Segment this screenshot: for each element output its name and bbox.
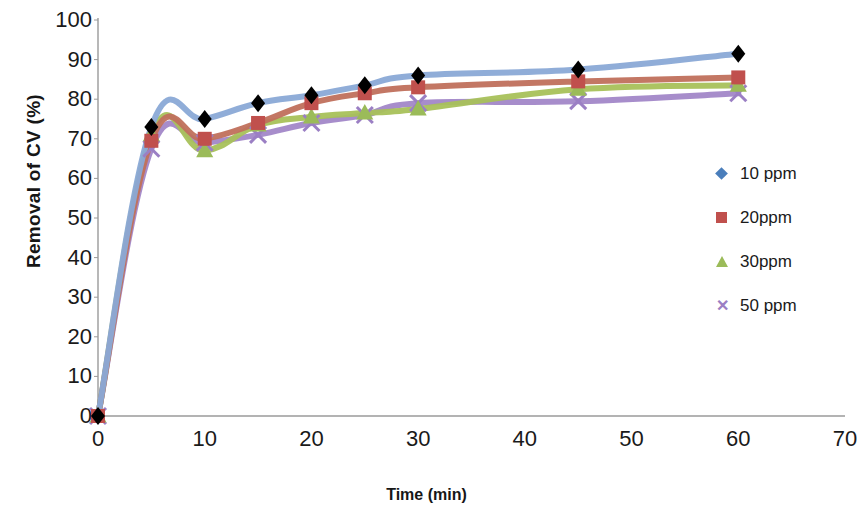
- data-point-marker: [251, 116, 265, 130]
- data-point-marker: [198, 132, 212, 146]
- legend-square-icon: [712, 208, 732, 228]
- legend-label: 10 ppm: [740, 164, 797, 184]
- data-point-marker: [251, 94, 265, 112]
- legend-label: 30ppm: [740, 252, 792, 272]
- legend-item[interactable]: 10 ppm: [712, 152, 847, 196]
- series-line: [98, 77, 738, 416]
- legend-item[interactable]: 30ppm: [712, 240, 847, 284]
- legend-label: 50 ppm: [740, 296, 797, 316]
- legend-triangle-icon: [712, 252, 732, 272]
- legend-marker-shape: [715, 167, 728, 180]
- x-axis-title: Time (min): [0, 486, 853, 504]
- legend-marker-shape: [716, 212, 727, 223]
- data-point-marker: [731, 70, 745, 84]
- chart-legend: 10 ppm20ppm30ppm✕50 ppm: [712, 152, 847, 328]
- legend-item[interactable]: 20ppm: [712, 196, 847, 240]
- data-point-marker: [731, 45, 745, 63]
- legend-diamond-icon: [712, 164, 732, 184]
- legend-marker-shape: ✕: [715, 299, 729, 313]
- legend-marker-shape: [716, 256, 728, 267]
- legend-x-icon: ✕: [712, 296, 732, 316]
- legend-label: 20ppm: [740, 208, 792, 228]
- data-point-marker: [198, 110, 212, 128]
- legend-item[interactable]: ✕50 ppm: [712, 284, 847, 328]
